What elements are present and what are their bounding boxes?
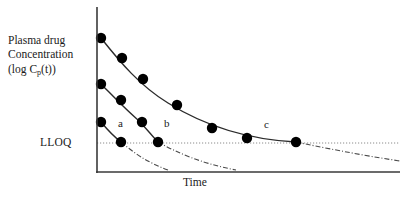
curve-b-extrapolation (158, 142, 236, 170)
x-axis-title: Time (183, 175, 207, 189)
data-point-marker (116, 95, 126, 105)
curve-label-a: a (118, 117, 123, 131)
data-point-marker (138, 74, 148, 84)
data-point-marker (137, 117, 147, 127)
y-axis-title-subscript: p (37, 68, 41, 77)
data-point-marker (242, 133, 252, 143)
y-axis-title-line-2: Concentration (8, 47, 73, 61)
y-axis-title-line-3-suffix: (t)) (41, 63, 56, 75)
curve-b-line (101, 84, 158, 142)
data-point-marker (207, 123, 217, 133)
curve-c-extrapolation (296, 142, 400, 161)
plot-area (0, 0, 415, 198)
y-axis-title-line-1: Plasma drug (8, 33, 73, 47)
curve-label-b: b (164, 117, 170, 131)
y-axis-title: Plasma drug Concentration (log Cp(t)) (8, 33, 73, 76)
data-point-marker (117, 53, 127, 63)
data-point-marker (153, 137, 163, 147)
data-point-marker (116, 137, 126, 147)
lloq-axis-label: LLOQ (40, 135, 71, 149)
y-axis-title-line-3: (log Cp(t)) (8, 62, 73, 76)
pharmacokinetics-figure: Plasma drug Concentration (log Cp(t)) LL… (0, 0, 415, 198)
curve-label-c: c (264, 118, 269, 132)
data-point-marker (291, 137, 301, 147)
y-axis-title-line-3-prefix: (log C (8, 63, 37, 75)
data-point-marker (172, 100, 182, 110)
